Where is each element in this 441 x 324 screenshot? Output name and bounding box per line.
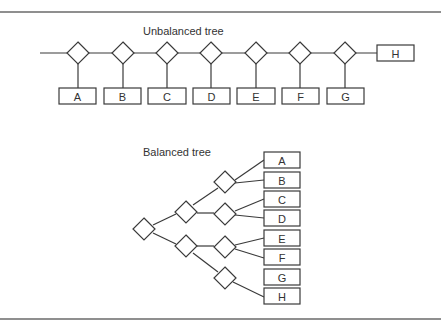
leaf-box-d: D xyxy=(264,210,300,226)
svg-text:C: C xyxy=(278,194,286,206)
node-diamond xyxy=(67,42,89,64)
balanced-tree: Balanced tree A B xyxy=(133,146,300,304)
leaf-box-c: C xyxy=(148,88,186,104)
node-diamond xyxy=(214,203,236,225)
node-diamond xyxy=(200,42,222,64)
svg-text:F: F xyxy=(297,91,304,103)
svg-text:D: D xyxy=(278,213,286,225)
unbalanced-tree: Unbalanced tree A B C xyxy=(40,25,414,104)
svg-text:B: B xyxy=(278,175,285,187)
leaf-box-a: A xyxy=(59,88,96,104)
svg-text:F: F xyxy=(279,252,286,264)
svg-text:B: B xyxy=(119,91,126,103)
leaf-box-b: B xyxy=(264,172,300,188)
leaf-box-e: E xyxy=(237,88,275,104)
svg-text:G: G xyxy=(341,91,350,103)
svg-text:G: G xyxy=(278,272,287,284)
svg-text:A: A xyxy=(74,91,82,103)
svg-text:H: H xyxy=(278,291,286,303)
svg-text:A: A xyxy=(278,155,286,167)
leaf-box-g: G xyxy=(264,269,300,285)
svg-text:E: E xyxy=(252,91,259,103)
root-diamond xyxy=(133,218,155,240)
leaf-box-h: H xyxy=(377,45,414,61)
svg-text:E: E xyxy=(278,233,285,245)
leaf-box-g: G xyxy=(327,88,364,104)
unbalanced-tree-title: Unbalanced tree xyxy=(143,25,224,37)
leaf-box-a: A xyxy=(264,152,300,168)
node-diamond xyxy=(289,42,311,64)
svg-text:C: C xyxy=(163,91,171,103)
node-diamond xyxy=(245,42,267,64)
node-diamond xyxy=(156,42,178,64)
node-diamond xyxy=(214,171,236,193)
leaf-box-d: D xyxy=(193,88,230,104)
leaf-box-f: F xyxy=(282,88,319,104)
leaf-box-b: B xyxy=(104,88,141,104)
tree-diagram: Unbalanced tree A B C xyxy=(0,0,441,324)
svg-text:H: H xyxy=(392,48,400,60)
node-diamond xyxy=(112,42,134,64)
leaf-box-f: F xyxy=(264,249,300,265)
leaf-box-e: E xyxy=(264,230,300,246)
node-diamond xyxy=(214,236,236,258)
balanced-tree-title: Balanced tree xyxy=(143,146,211,158)
node-diamond xyxy=(334,42,356,64)
node-diamond xyxy=(214,267,236,289)
leaf-box-c: C xyxy=(264,191,300,207)
leaf-box-h: H xyxy=(264,288,300,304)
svg-text:D: D xyxy=(208,91,216,103)
